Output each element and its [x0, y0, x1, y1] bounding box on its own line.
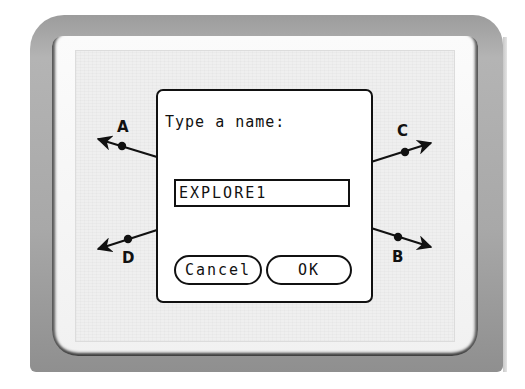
name-input[interactable]	[174, 179, 350, 207]
ok-button[interactable]: OK	[266, 255, 352, 285]
point-b[interactable]	[394, 233, 402, 241]
name-dialog: Type a name: Cancel OK	[156, 89, 373, 303]
point-d[interactable]	[124, 235, 132, 243]
point-label-c: C	[397, 124, 408, 139]
cancel-button[interactable]: Cancel	[174, 255, 262, 285]
point-a[interactable]	[118, 142, 126, 150]
point-label-a: A	[117, 120, 129, 135]
point-c[interactable]	[401, 148, 409, 156]
ray-a[interactable]	[98, 139, 157, 157]
point-label-b: B	[392, 250, 403, 265]
dialog-prompt: Type a name:	[165, 113, 285, 131]
point-label-d: D	[122, 251, 134, 266]
